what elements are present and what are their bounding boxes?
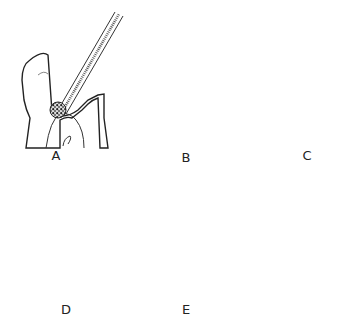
- panel-label-d: D: [61, 302, 71, 317]
- panel-label-c: C: [302, 148, 311, 163]
- panel-label-b: B: [182, 150, 191, 165]
- panel-label-e: E: [182, 302, 190, 317]
- panel-label-a: A: [52, 148, 61, 163]
- dental-diagram: [0, 0, 361, 327]
- panel-a-tooth: [22, 12, 123, 148]
